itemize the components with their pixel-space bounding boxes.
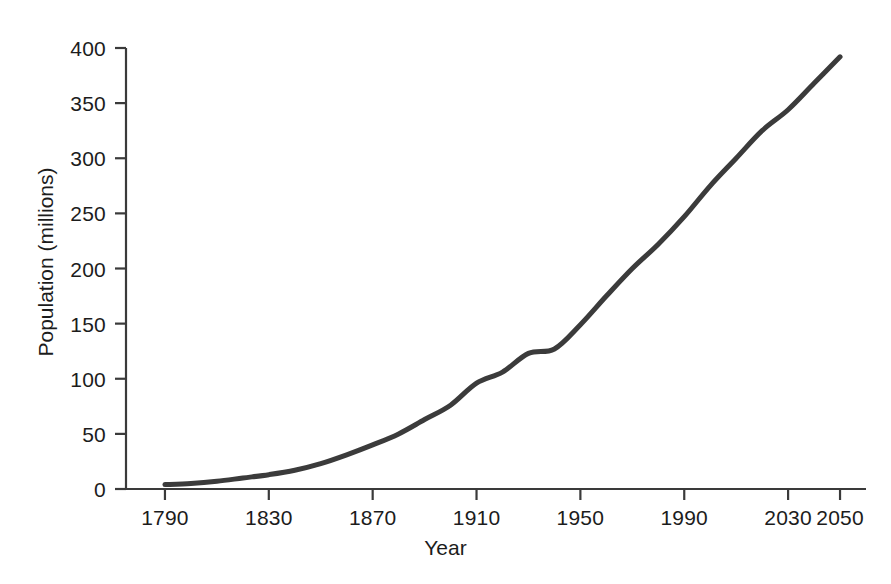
x-tick-label: 2030: [764, 507, 812, 528]
population-series-line: [165, 57, 840, 485]
y-axis-ticks: [115, 48, 126, 489]
population-line-chart: 050100150200250300350400 179018301870191…: [0, 0, 891, 584]
chart-plot-area: [0, 0, 891, 584]
y-tick-label: 50: [82, 423, 106, 444]
x-tick-label: 2050: [816, 507, 864, 528]
x-tick-label: 1910: [453, 507, 501, 528]
y-tick-label: 400: [70, 38, 106, 59]
y-tick-label: 100: [70, 368, 106, 389]
x-axis-ticks: [165, 489, 840, 500]
x-tick-label: 1950: [557, 507, 605, 528]
chart-axes: [115, 48, 866, 500]
y-tick-label: 200: [70, 258, 106, 279]
y-tick-label: 0: [94, 479, 106, 500]
x-tick-label: 1870: [349, 507, 397, 528]
y-tick-label: 250: [70, 203, 106, 224]
y-tick-label: 350: [70, 93, 106, 114]
x-tick-label: 1990: [660, 507, 708, 528]
y-tick-label: 150: [70, 313, 106, 334]
y-tick-label: 300: [70, 148, 106, 169]
x-tick-label: 1830: [245, 507, 293, 528]
x-axis-title: Year: [0, 536, 891, 560]
x-tick-label: 1790: [141, 507, 189, 528]
